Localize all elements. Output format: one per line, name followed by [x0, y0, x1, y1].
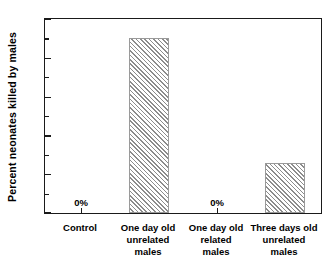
y-minor-tick-25: [45, 116, 49, 117]
x-tick-control: [81, 208, 82, 213]
zero-annotation-control: 0%: [61, 198, 101, 208]
y-minor-tick-15: [45, 155, 49, 156]
y-major-tick-0: [45, 212, 51, 213]
bar-three-days-old-unrelated-males: [265, 163, 305, 213]
y-major-tick-10: [45, 174, 51, 175]
y-major-tick-40: [45, 58, 51, 59]
y-minor-tick-45: [45, 38, 49, 39]
plot-area: 0% 0%: [44, 18, 322, 214]
y-minor-tick-5: [45, 194, 49, 195]
bar-one-day-old-unrelated-males: [129, 38, 169, 213]
x-tick-one-day-old-related-males: [217, 208, 218, 213]
y-axis-title: Percent neonates killed by males: [1, 10, 23, 225]
x-category-label-three-days-old-unrelated-males: Three days old unrelated males: [241, 222, 327, 258]
y-major-tick-50: [45, 19, 51, 20]
y-major-tick-30: [45, 97, 51, 98]
y-minor-tick-35: [45, 77, 49, 78]
zero-annotation-one-day-old-related-males: 0%: [197, 198, 237, 208]
plot-inner: 0% 0%: [45, 19, 321, 213]
y-major-tick-20: [45, 135, 51, 136]
chart-figure: Percent neonates killed by males 50 40 3…: [0, 0, 332, 271]
